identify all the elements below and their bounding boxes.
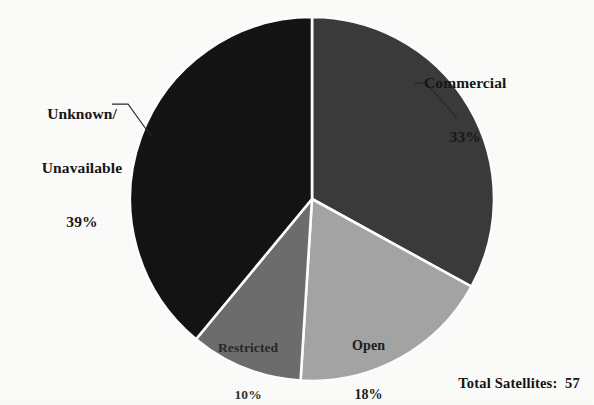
- slice-label-restricted-percent: 10%: [218, 387, 278, 403]
- slice-label-open-percent: 18%: [352, 387, 385, 403]
- slice-label-restricted: Restricted 10%: [218, 309, 278, 405]
- slice-label-commercial: Commercial 33%: [424, 38, 507, 182]
- slice-label-unknown-percent: 39%: [18, 213, 146, 231]
- total-satellites-label: Total Satellites: 57: [458, 375, 580, 392]
- slice-label-open: Open 18%: [352, 306, 385, 405]
- slice-label-unknown-line2: Unavailable: [18, 159, 146, 177]
- slice-label-restricted-name: Restricted: [218, 340, 278, 356]
- slice-label-unknown-unavailable: Unknown/ Unavailable 39%: [18, 69, 146, 267]
- pie-chart-figure: Commercial 33% Unknown/ Unavailable 39% …: [0, 0, 594, 405]
- slice-label-commercial-name: Commercial: [424, 74, 507, 92]
- slice-label-unknown-line1: Unknown/: [18, 105, 146, 123]
- slice-label-open-name: Open: [352, 338, 385, 354]
- slice-label-commercial-percent: 33%: [424, 128, 507, 146]
